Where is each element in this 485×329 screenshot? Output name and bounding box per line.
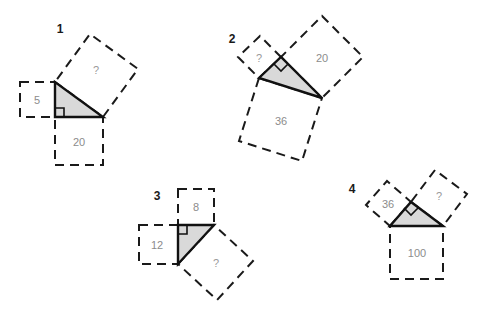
figure-2-leg-long-square-label: 20 <box>316 52 328 64</box>
figure-2-hypotenuse-square-label: 36 <box>275 115 287 127</box>
figure-3-leg-left-square-label: 12 <box>151 239 163 251</box>
figure-2: 2 ? 20 36 <box>229 16 363 161</box>
figure-4: 4 36 ? 100 <box>349 170 467 279</box>
figure-1: 1 ? 5 20 <box>20 22 138 165</box>
figure-4-hypotenuse-square-label: 100 <box>408 247 426 259</box>
worksheet-canvas: 1 ? 5 20 2 ? 20 36 3 <box>0 0 485 329</box>
figure-4-leg-left-square-label: 36 <box>382 198 394 210</box>
figure-3: 3 8 12 ? <box>139 189 253 300</box>
figure-2-leg-short-square-label: ? <box>256 52 262 64</box>
figure-4-number: 4 <box>349 182 356 196</box>
figure-3-leg-top-square-label: 8 <box>193 201 199 213</box>
figure-1-hypotenuse-square-label: ? <box>93 64 99 76</box>
figure-3-hypotenuse-square-label: ? <box>213 257 219 269</box>
figure-1-leg-horizontal-square-label: 20 <box>73 136 85 148</box>
figure-1-number: 1 <box>57 22 64 36</box>
figure-4-leg-right-square-label: ? <box>436 190 442 202</box>
figure-3-number: 3 <box>154 189 161 203</box>
figure-2-number: 2 <box>229 32 236 46</box>
figure-1-leg-vertical-square-label: 5 <box>34 94 40 106</box>
